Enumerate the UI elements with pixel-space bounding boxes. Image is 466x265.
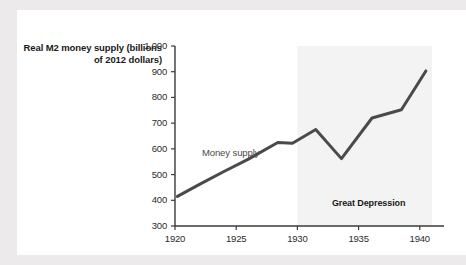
- figure-panel: Real M2 money supply (billions of 2012 d…: [17, 10, 466, 255]
- chart-svg: [17, 10, 466, 255]
- chart-figure: [17, 10, 466, 255]
- y-tick-label: 300: [127, 220, 167, 231]
- x-tick-label: 1930: [277, 233, 317, 244]
- y-tick-label: 1,000: [127, 40, 167, 51]
- y-tick-label: 600: [127, 143, 167, 154]
- y-tick-label: 900: [127, 66, 167, 77]
- y-tick-label: 800: [127, 91, 167, 102]
- annotation-great-depression: Great Depression: [332, 198, 405, 208]
- y-tick-label: 500: [127, 169, 167, 180]
- x-tick-label: 1925: [216, 233, 256, 244]
- x-tick-label: 1935: [339, 233, 379, 244]
- y-tick-label: 400: [127, 194, 167, 205]
- series-label-money-supply: Money supply: [202, 147, 259, 158]
- y-tick-label: 700: [127, 117, 167, 128]
- page-background: Real M2 money supply (billions of 2012 d…: [0, 0, 466, 265]
- x-tick-label: 1920: [155, 233, 195, 244]
- x-tick-label: 1940: [400, 233, 440, 244]
